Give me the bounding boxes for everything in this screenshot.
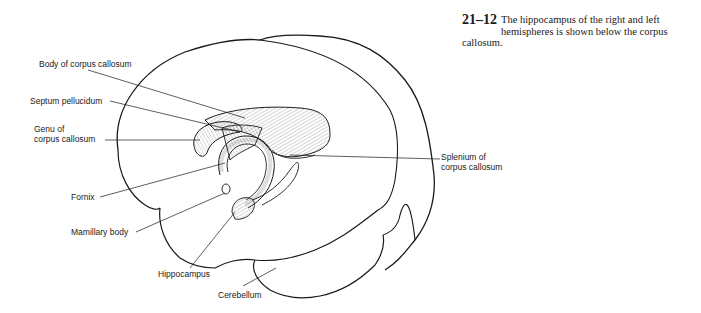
label-body-corpus-callosum: Body of corpus callosum (39, 59, 132, 69)
hippocampus-tail (252, 162, 299, 205)
label-septum-pellucidum: Septum pellucidum (30, 96, 102, 106)
label-fornix: Fornix (71, 192, 95, 202)
leader-fornix (100, 163, 225, 197)
caption-line-1: The hippocampus of the right and left (501, 14, 660, 25)
cerebellum-outline (253, 235, 383, 298)
frontal-lobe-outline (118, 150, 160, 209)
leader-body-corpus-callosum (88, 70, 245, 118)
label-genu-line2: corpus callosum (34, 134, 95, 144)
temporal-lobe-outline (160, 208, 378, 268)
occipital-outline (383, 204, 415, 240)
leader-splenium (290, 155, 440, 159)
label-mamillary-body: Mamillary body (71, 227, 128, 237)
hippocampus (232, 198, 254, 220)
mamillary-body (222, 184, 230, 194)
leader-mamillary (136, 193, 225, 232)
label-genu-line1: Genu of (34, 124, 64, 134)
caption-line-3: callosum. (462, 37, 698, 49)
caption-line-2: hemispheres is shown below the corpus (501, 26, 668, 37)
leader-hippocampus (190, 212, 235, 268)
label-splenium-line2: corpus callosum (441, 162, 502, 172)
figure-number: 21–12 (462, 14, 497, 37)
label-hippocampus: Hippocampus (158, 269, 210, 279)
leader-cerebellum (243, 268, 276, 286)
label-splenium-line1: Splenium of (441, 152, 486, 162)
label-cerebellum: Cerebellum (218, 290, 261, 300)
figure-caption: 21–12 The hippocampus of the right and l… (462, 14, 698, 49)
